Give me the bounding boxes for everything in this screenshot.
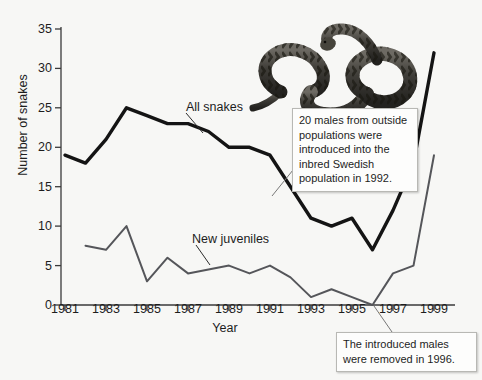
y-tick-label: 10 (22, 219, 52, 233)
x-tick-label: 1997 (370, 302, 416, 316)
x-tick-label: 1991 (247, 302, 293, 316)
x-tick-label: 1987 (165, 302, 211, 316)
y-tick-label: 35 (22, 22, 52, 36)
chart-figure: 0 5 10 15 20 25 30 35 1981 1983 1985 198… (0, 0, 482, 380)
x-tick-label: 1985 (124, 302, 170, 316)
x-tick-label: 1989 (206, 302, 252, 316)
series-label-all-snakes: All snakes (186, 100, 243, 114)
leader-line-new-juveniles (196, 245, 210, 265)
x-tick-label: 1981 (42, 302, 88, 316)
y-tick-label: 5 (22, 259, 52, 273)
x-tick-label: 1995 (329, 302, 375, 316)
y-tick-marks (55, 29, 61, 305)
x-tick-label: 1993 (288, 302, 334, 316)
x-axis-title: Year (170, 321, 280, 335)
callout-introduction: 20 males from outside populations were i… (292, 108, 418, 192)
callout-removal: The introduced males were removed in 199… (336, 332, 477, 372)
series-label-new-juveniles: New juveniles (192, 232, 269, 246)
x-tick-label: 1983 (83, 302, 129, 316)
y-axis-title: Number of snakes (16, 50, 30, 200)
x-tick-label: 1999 (411, 302, 457, 316)
